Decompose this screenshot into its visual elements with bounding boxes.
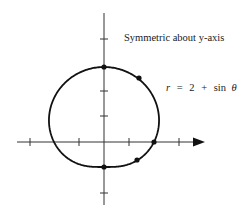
symmetry-annotation: Symmetric about y-axis bbox=[124, 32, 224, 43]
polar-diagram: Symmetric about y-axis r = 2 + sin θ bbox=[0, 0, 241, 217]
x-axis-arrowhead bbox=[193, 138, 205, 147]
point-upper-right bbox=[136, 75, 141, 80]
equation-label: r = 2 + sin θ bbox=[166, 82, 237, 93]
highlighted-points bbox=[101, 64, 156, 169]
point-x-intercept bbox=[151, 139, 156, 144]
point-top bbox=[101, 64, 106, 69]
point-lower-right bbox=[134, 157, 139, 162]
point-bottom bbox=[101, 164, 106, 169]
svg-text:r = 2 +: r = 2 + sin θ bbox=[166, 82, 237, 93]
